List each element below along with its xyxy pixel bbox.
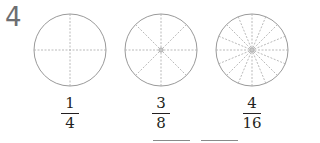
circle-eighths bbox=[125, 14, 197, 86]
answer-blank-2[interactable] bbox=[201, 140, 238, 141]
numerator: 1 bbox=[50, 96, 90, 113]
denominator: 8 bbox=[141, 116, 181, 131]
numerator: 4 bbox=[232, 96, 272, 113]
circle-sixteenths bbox=[216, 14, 288, 86]
fraction-three-eighths: 3 8 bbox=[141, 96, 181, 131]
numerator: 3 bbox=[141, 96, 181, 113]
answer-blank-1[interactable] bbox=[153, 140, 190, 141]
fraction-four-sixteenths: 4 16 bbox=[232, 96, 272, 131]
denominator: 4 bbox=[50, 116, 90, 131]
denominator: 16 bbox=[232, 116, 272, 131]
circle-quarters bbox=[34, 14, 106, 86]
fraction-one-quarter: 1 4 bbox=[50, 96, 90, 131]
